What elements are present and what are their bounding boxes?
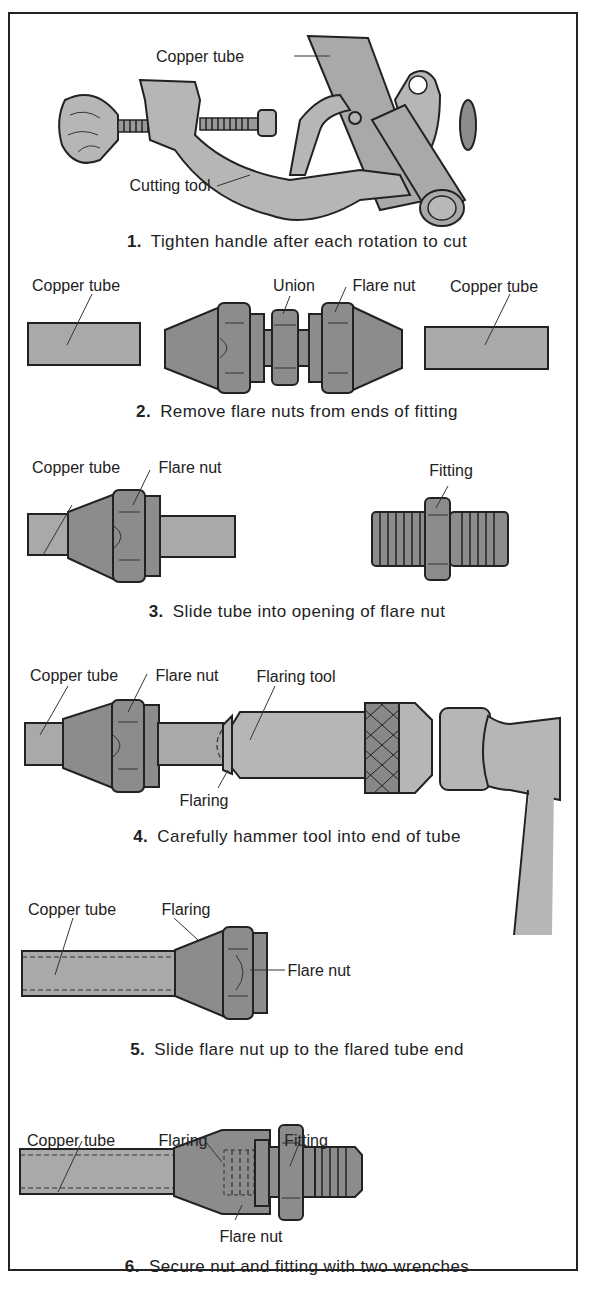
- step-3-caption: 3. Slide tube into opening of flare nut: [149, 602, 446, 621]
- label-flare-nut: Flare nut: [352, 277, 416, 294]
- step-3-illustration: Copper tube Flare nut Fitting 3. Slide t…: [28, 459, 508, 621]
- label-flare-nut: Flare nut: [155, 667, 219, 684]
- union-icon: [272, 310, 298, 385]
- label-flare-nut: Flare nut: [287, 962, 351, 979]
- step-5-illustration: Copper tube Flaring Flare nut 5. Slide f…: [22, 901, 464, 1059]
- label-cutting-tool: Cutting tool: [130, 177, 211, 194]
- caption-text: Carefully hammer tool into end of tube: [157, 827, 460, 846]
- caption-text: Remove flare nuts from ends of fitting: [160, 402, 458, 421]
- hammer-icon: [440, 708, 560, 935]
- label-copper-tube: Copper tube: [32, 277, 120, 294]
- label-copper-tube: Copper tube: [32, 459, 120, 476]
- label-fitting: Fitting: [429, 462, 473, 479]
- step-number: 6.: [125, 1257, 140, 1276]
- flare-nut-icon: [322, 303, 354, 393]
- copper-tube-icon: [22, 951, 177, 996]
- step-2-caption: 2. Remove flare nuts from ends of fittin…: [136, 402, 458, 421]
- caption-text: Slide tube into opening of flare nut: [173, 602, 445, 621]
- step-number: 1.: [127, 232, 142, 251]
- label-fitting: Fitting: [284, 1132, 328, 1149]
- step-5-caption: 5. Slide flare nut up to the flared tube…: [130, 1040, 464, 1059]
- label-copper-tube: Copper tube: [28, 901, 116, 918]
- label-flaring: Flaring: [162, 901, 211, 918]
- label-copper-tube: Copper tube: [156, 48, 244, 65]
- step-number: 4.: [133, 827, 148, 846]
- step-6-caption: 6. Secure nut and fitting with two wrenc…: [125, 1257, 469, 1276]
- label-flaring: Flaring: [159, 1132, 208, 1149]
- label-copper-tube: Copper tube: [450, 278, 538, 295]
- label-flaring-tool: Flaring tool: [256, 668, 335, 685]
- step-1-illustration: Copper tube Cutting tool 1. Tighten hand…: [59, 36, 476, 251]
- flare-nut-icon: [113, 490, 145, 582]
- step-4-caption: 4. Carefully hammer tool into end of tub…: [133, 827, 461, 846]
- flare-nut-icon: [223, 927, 253, 1019]
- cutter-knob-icon: [59, 95, 118, 163]
- caption-text: Secure nut and fitting with two wrenches: [149, 1257, 469, 1276]
- step-1-caption: 1. Tighten handle after each rotation to…: [127, 232, 467, 251]
- label-copper-tube: Copper tube: [30, 667, 118, 684]
- caption-text: Slide flare nut up to the flared tube en…: [154, 1040, 463, 1059]
- label-union: Union: [273, 277, 315, 294]
- fitting-icon: [372, 498, 508, 580]
- step-2-illustration: Copper tube Union Flare nut Copper tube …: [28, 277, 548, 421]
- step-number: 2.: [136, 402, 151, 421]
- copper-tube-icon: [20, 1149, 175, 1194]
- copper-tube-icon: [28, 323, 140, 365]
- step-6-illustration: Copper tube Flaring Fitting Flare nut 6.…: [20, 1125, 469, 1276]
- step-number: 5.: [130, 1040, 145, 1059]
- flare-nut-icon: [112, 700, 144, 792]
- knurled-grip-icon: [365, 703, 399, 793]
- label-flare-nut: Flare nut: [219, 1228, 283, 1245]
- copper-tube-icon: [425, 327, 548, 369]
- flare-nut-icon: [218, 303, 250, 393]
- label-flare-nut: Flare nut: [158, 459, 222, 476]
- step-4-illustration: Copper tube Flare nut Flaring tool Flari…: [25, 667, 560, 935]
- copper-tube-icon: [25, 723, 65, 765]
- label-copper-tube: Copper tube: [27, 1132, 115, 1149]
- step-number: 3.: [149, 602, 164, 621]
- label-flaring: Flaring: [180, 792, 229, 809]
- cutter-wheel-icon: [460, 100, 476, 150]
- caption-text: Tighten handle after each rotation to cu…: [151, 232, 467, 251]
- flaring-diagram: Copper tube Cutting tool 1. Tighten hand…: [0, 0, 594, 1300]
- flaring-tool-icon: [232, 712, 365, 778]
